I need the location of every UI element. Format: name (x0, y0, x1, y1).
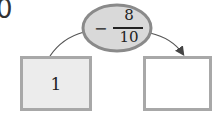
answer-box[interactable] (143, 56, 212, 111)
minus-sign: − (94, 19, 107, 38)
input-value: 1 (23, 74, 89, 94)
arc-out-arrow (150, 33, 183, 54)
fraction-numerator: 8 (118, 6, 140, 24)
operator-fraction: − 8 10 (85, 7, 151, 49)
fraction-denominator: 10 (116, 28, 142, 46)
input-box: 1 (20, 56, 92, 111)
arc-in (50, 32, 84, 56)
